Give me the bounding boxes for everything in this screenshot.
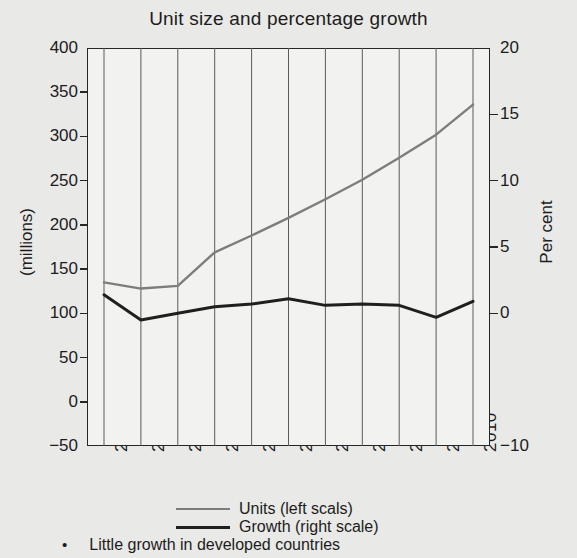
y-axis-left-tick-label: 0 — [8, 392, 78, 412]
bullet-point-icon: • — [62, 537, 67, 552]
y-axis-left-tick-label: 150 — [8, 259, 78, 279]
legend-swatch-growth-icon — [176, 526, 230, 529]
y-axis-left-ticks: 400350300250200150100500−50 — [0, 0, 78, 558]
y-axis-right-tickmark — [490, 114, 498, 116]
gridlines — [104, 48, 473, 446]
y-axis-left-tick-label: 300 — [8, 126, 78, 146]
legend-item-growth: Growth (right scale) — [176, 518, 476, 536]
y-axis-left-tick-label: 100 — [8, 303, 78, 323]
y-axis-left-tick-label: 200 — [8, 215, 78, 235]
y-axis-right-ticks: 20151050−10 — [500, 0, 570, 558]
y-axis-left-tick-label: 250 — [8, 171, 78, 191]
legend-label-growth: Growth (right scale) — [239, 518, 379, 536]
y-axis-left-tick-label: 50 — [8, 348, 78, 368]
y-axis-right-tick-label: 15 — [500, 104, 550, 124]
chart-legend: Units (left scals) Growth (right scale) — [176, 500, 476, 536]
y-axis-right-tickmark — [490, 246, 498, 248]
plot-svg — [87, 48, 490, 446]
legend-item-units: Units (left scals) — [176, 500, 476, 518]
y-axis-right-tick-label: 0 — [500, 303, 550, 323]
legend-label-units: Units (left scals) — [239, 500, 353, 518]
y-axis-left-tick-label: 350 — [8, 82, 78, 102]
y-axis-left-tick-label: 400 — [8, 38, 78, 58]
y-axis-right-tick-label: −10 — [500, 436, 550, 456]
chart-title: Unit size and percentage growth — [0, 8, 577, 30]
y-axis-left-tick-label: −50 — [8, 436, 78, 456]
y-axis-right-tickmark — [490, 180, 498, 182]
legend-swatch-units-icon — [176, 508, 230, 510]
caption-text: Little growth in developed countries — [89, 536, 340, 554]
caption-bullet-row: • Little growth in developed countries — [62, 536, 340, 554]
y-axis-right-tick-label: 10 — [500, 171, 550, 191]
y-axis-right-tick-label: 20 — [500, 38, 550, 58]
y-axis-right-tickmark — [490, 313, 498, 315]
slide-canvas: Unit size and percentage growth (million… — [0, 0, 577, 558]
y-axis-right-tick-label: 5 — [500, 237, 550, 257]
